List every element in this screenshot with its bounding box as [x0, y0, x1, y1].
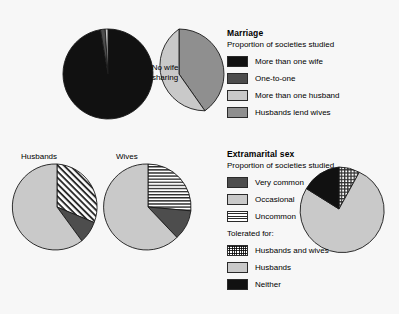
extramarital-legend-block: Extramarital sex Proportion of societies… [227, 149, 334, 295]
swatch-icon-black [227, 56, 248, 67]
swatch-icon-crosshatch-grid [227, 245, 248, 256]
legend-item-neither[interactable]: Neither [227, 278, 334, 291]
marriage-legend-block: Marriage Proportion of societies studied… [227, 28, 340, 123]
swatch-icon-dark-gray [227, 177, 248, 188]
marriage-subtitle: Proportion of societies studied [227, 40, 340, 50]
legend-item-very-common[interactable]: Very common [227, 176, 334, 189]
legend-label: Husbands and wives [255, 246, 329, 256]
legend-item-occasional[interactable]: Occasional [227, 193, 334, 206]
legend-item-husbands-lend-wives[interactable]: Husbands lend wives [227, 106, 340, 119]
legend-label: Very common [255, 178, 304, 188]
extramarital-subtitle: Proportion of societies studied [227, 161, 334, 171]
legend-label: Husbands lend wives [255, 108, 331, 118]
legend-label: Husbands [255, 263, 291, 273]
wives-pie-caption: Wives [116, 152, 138, 161]
wives-pie [104, 163, 192, 251]
infographic-canvas: No wife sharing Marriage Proportion of s… [0, 0, 399, 314]
legend-item-husbands-and-wives[interactable]: Husbands and wives [227, 244, 334, 257]
swatch-icon-light-gray [227, 194, 248, 205]
swatch-icon-horizontal-hatch [227, 211, 248, 222]
swatch-icon-dark-gray [227, 73, 248, 84]
legend-item-uncommon[interactable]: Uncommon [227, 210, 334, 223]
marriage-title: Marriage [227, 28, 340, 38]
extramarital-title: Extramarital sex [227, 149, 334, 159]
husbands-pie-caption: Husbands [21, 152, 57, 161]
swatch-icon-light-gray [227, 90, 248, 101]
legend-item-more-than-one-wife[interactable]: More than one wife [227, 55, 340, 68]
swatch-icon-light-gray [227, 262, 248, 273]
legend-label: One-to-one [255, 74, 295, 84]
tolerated-for-heading: Tolerated for: [227, 229, 334, 239]
legend-item-more-than-one-husband[interactable]: More than one husband [227, 89, 340, 102]
wife-sharing-inline-label: No wife sharing [145, 63, 185, 82]
legend-label: More than one wife [255, 57, 323, 67]
swatch-icon-black [227, 279, 248, 290]
legend-label: Occasional [255, 195, 295, 205]
swatch-icon-mid-gray [227, 107, 248, 118]
legend-label: Uncommon [255, 212, 296, 222]
legend-item-husbands[interactable]: Husbands [227, 261, 334, 274]
legend-item-one-to-one[interactable]: One-to-one [227, 72, 340, 85]
husbands-pie [13, 163, 101, 251]
legend-label: Neither [255, 280, 281, 290]
legend-label: More than one husband [255, 91, 340, 101]
